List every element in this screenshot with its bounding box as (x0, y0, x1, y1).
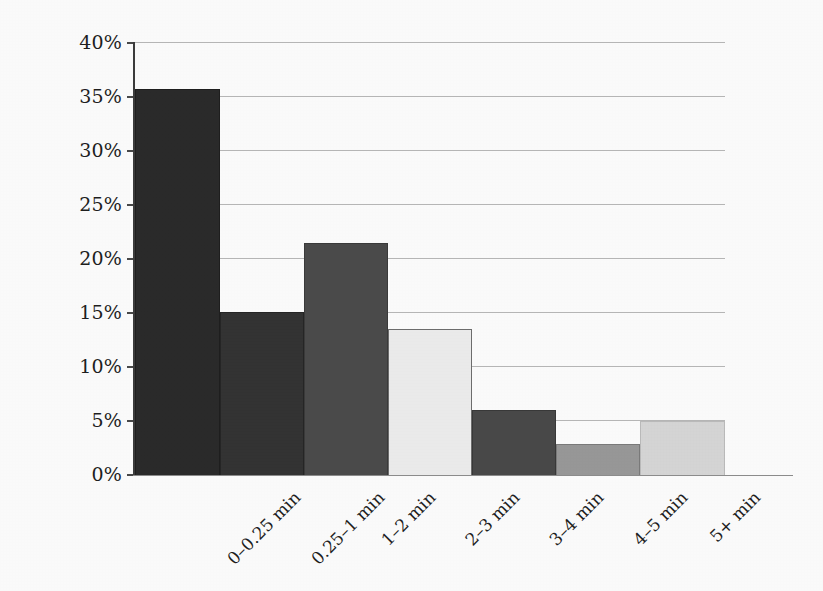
x-tick-label: 5+ min (706, 488, 763, 545)
x-tick-label: 2–3 min (462, 488, 523, 549)
x-tick-label: 4–5 min (630, 488, 691, 549)
histogram-chart: 40% 35% 30% 25% 20% 15% 10% 5% 0% (0, 0, 823, 591)
x-tick-label: 0.25–1 min (308, 488, 388, 568)
x-axis-tick-labels: 0–0.25 min 0.25–1 min 1–2 min 2–3 min 3–… (0, 0, 823, 591)
x-tick-label: 3–4 min (546, 488, 607, 549)
x-tick-label: 0–0.25 min (224, 488, 304, 568)
x-tick-label: 1–2 min (378, 488, 439, 549)
